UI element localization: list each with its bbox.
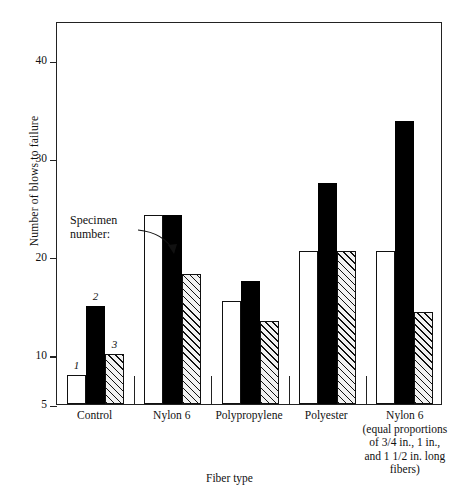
bar-control-specimen-3: 3 — [105, 354, 124, 404]
y-tick-mark — [50, 160, 57, 161]
x-label-line: and 1 1/2 in. long — [345, 450, 459, 464]
x-axis-category-label: Nylon 6 — [133, 409, 210, 423]
specimen-annotation: Specimen number: — [70, 213, 117, 241]
x-axis-category-label: Polypropylene — [210, 409, 287, 423]
y-tick-mark — [50, 406, 57, 407]
bar-group — [222, 21, 279, 404]
y-tick-label: 30 — [23, 152, 47, 164]
bar-polyester-specimen-3 — [337, 251, 356, 404]
y-tick-mark — [50, 356, 57, 357]
bar-control-specimen-1: 1 — [67, 375, 86, 404]
annotation-line-1: Specimen — [70, 213, 117, 227]
group-separator — [366, 376, 367, 404]
bar-nylon-6-specimen-1 — [376, 251, 395, 404]
group-separator — [134, 376, 135, 404]
bar-nylon-6-specimen-2 — [395, 121, 414, 404]
x-label-line: fibers) — [345, 463, 459, 477]
bar-group — [299, 21, 356, 404]
y-axis-title: Number of blows to failure — [28, 51, 40, 311]
group-separator — [211, 376, 212, 404]
bar-polypropylene-specimen-1 — [222, 301, 241, 404]
x-label-line: (equal proportions — [345, 423, 459, 437]
bar-nylon-6-specimen-3 — [182, 274, 201, 404]
bar-polypropylene-specimen-3 — [260, 321, 279, 404]
bar-group — [376, 21, 433, 404]
bar-polyester-specimen-1 — [299, 251, 318, 404]
y-tick-label: 40 — [23, 54, 47, 66]
x-label-line: Nylon 6 — [345, 409, 459, 423]
group-separator — [289, 376, 290, 404]
bar-number-label: 1 — [74, 359, 80, 371]
y-tick-mark — [50, 258, 57, 259]
curved-arrow-icon — [136, 228, 182, 262]
bar-number-label: 3 — [112, 338, 118, 350]
annotation-line-2: number: — [70, 227, 117, 241]
y-tick-label: 20 — [23, 251, 47, 263]
x-label-line: Nylon 6 — [133, 409, 210, 423]
chart-figure: Number of blows to failure 510203040123 … — [0, 0, 459, 495]
bar-nylon-6-specimen-3 — [414, 312, 433, 404]
x-axis-category-label: Control — [56, 409, 133, 423]
bar-number-label: 2 — [93, 290, 99, 302]
y-tick-label: 10 — [23, 349, 47, 361]
x-label-line: Control — [56, 409, 133, 423]
y-tick-label: 5 — [23, 398, 47, 410]
x-axis-category-label: Nylon 6(equal proportionsof 3/4 in., 1 i… — [345, 409, 459, 477]
bar-control-specimen-2: 2 — [86, 306, 105, 404]
bar-polypropylene-specimen-2 — [241, 281, 260, 404]
y-tick-mark — [50, 62, 57, 63]
x-label-line: Polypropylene — [210, 409, 287, 423]
bar-polyester-specimen-2 — [318, 183, 337, 404]
bar-group — [144, 21, 201, 404]
x-label-line: of 3/4 in., 1 in., — [345, 436, 459, 450]
